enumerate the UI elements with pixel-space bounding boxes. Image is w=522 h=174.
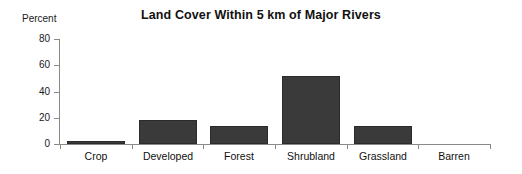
x-axis-tick xyxy=(132,144,133,149)
bar xyxy=(67,141,125,144)
x-axis-tick xyxy=(275,144,276,149)
bar xyxy=(210,126,268,144)
y-axis-tick xyxy=(54,118,60,119)
y-axis-tick xyxy=(54,65,60,66)
y-axis-tick-label: 60 xyxy=(4,59,50,70)
bar xyxy=(282,76,340,144)
x-axis-tick xyxy=(490,144,491,149)
bar xyxy=(139,120,197,144)
y-axis-tick-label: 20 xyxy=(4,112,50,123)
x-axis-category-label: Crop xyxy=(85,150,108,162)
y-axis-tick-label: 40 xyxy=(4,86,50,97)
x-axis-category-label: Developed xyxy=(143,150,193,162)
chart-container: Land Cover Within 5 km of Major Rivers P… xyxy=(0,0,522,174)
x-axis-category-label: Barren xyxy=(438,150,470,162)
x-axis-category-label: Shrubland xyxy=(287,150,335,162)
plot-area: 020406080 CropDevelopedForestShrublandGr… xyxy=(0,0,522,174)
y-axis-tick xyxy=(54,39,60,40)
x-axis-tick xyxy=(203,144,204,149)
y-axis-tick-label: 80 xyxy=(4,33,50,44)
x-axis-tick xyxy=(418,144,419,149)
x-axis-category-label: Grassland xyxy=(359,150,407,162)
x-axis-category-label: Forest xyxy=(224,150,254,162)
y-axis-tick-label: 0 xyxy=(4,138,50,149)
x-axis-tick xyxy=(60,144,61,149)
bar xyxy=(354,126,412,144)
x-axis-tick xyxy=(347,144,348,149)
y-axis-tick xyxy=(54,92,60,93)
